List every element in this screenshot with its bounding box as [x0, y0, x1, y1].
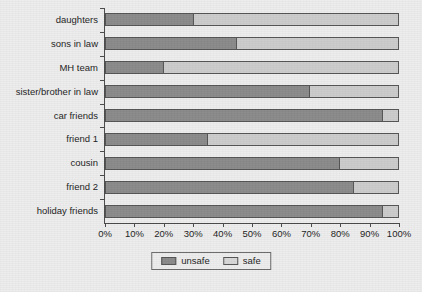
bar-row: friend 1 — [105, 133, 399, 146]
bar-row: holiday friends — [105, 205, 399, 218]
x-axis-tick — [164, 223, 165, 227]
x-axis-label: 70% — [301, 229, 320, 239]
bar-row: daughters — [105, 13, 399, 26]
x-axis-tick — [281, 223, 282, 227]
x-axis-label: 90% — [360, 229, 379, 239]
x-axis-label: 0% — [98, 229, 112, 239]
y-axis-tick — [100, 127, 105, 128]
x-axis-label: 100% — [387, 229, 411, 239]
x-axis-label: 40% — [213, 229, 232, 239]
stacked-bar[interactable] — [105, 181, 399, 194]
bar-segment-unsafe[interactable] — [106, 14, 194, 25]
x-axis-label: 80% — [331, 229, 350, 239]
bar-segment-safe[interactable] — [310, 86, 398, 97]
bar-row: sons in law — [105, 37, 399, 50]
y-axis-tick — [100, 151, 105, 152]
bar-segment-safe[interactable] — [194, 14, 398, 25]
x-axis-tick — [105, 223, 106, 227]
x-axis-tick — [134, 223, 135, 227]
bar-row: cousin — [105, 157, 399, 170]
bar-segment-safe[interactable] — [383, 206, 398, 217]
bar-segment-safe[interactable] — [164, 62, 398, 73]
stacked-bar[interactable] — [105, 13, 399, 26]
bar-row: car friends — [105, 109, 399, 122]
stacked-bar[interactable] — [105, 37, 399, 50]
bar-segment-safe[interactable] — [208, 134, 398, 145]
plot-area: daughterssons in lawMH teamsister/brothe… — [105, 8, 399, 223]
x-axis-tick — [399, 223, 400, 227]
stacked-bar-chart: daughterssons in lawMH teamsister/brothe… — [0, 0, 422, 292]
stacked-bar[interactable] — [105, 61, 399, 74]
legend-swatch-unsafe — [161, 257, 176, 265]
category-label: daughters — [56, 15, 98, 25]
category-label: friend 1 — [66, 134, 98, 144]
y-axis-tick — [100, 32, 105, 33]
category-label: holiday friends — [37, 206, 98, 216]
y-axis-tick — [100, 80, 105, 81]
bar-segment-unsafe[interactable] — [106, 182, 354, 193]
y-axis-tick — [100, 56, 105, 57]
bar-row: friend 2 — [105, 181, 399, 194]
x-axis-label: 50% — [242, 229, 261, 239]
bar-segment-unsafe[interactable] — [106, 206, 383, 217]
bar-segment-safe[interactable] — [383, 110, 398, 121]
stacked-bar[interactable] — [105, 85, 399, 98]
x-axis-tick — [340, 223, 341, 227]
legend-item-safe[interactable]: safe — [223, 256, 261, 266]
legend-label-unsafe: unsafe — [181, 256, 210, 266]
x-axis-tick — [370, 223, 371, 227]
category-label: sons in law — [51, 39, 98, 49]
bar-segment-unsafe[interactable] — [106, 62, 164, 73]
x-axis-label: 10% — [125, 229, 144, 239]
bar-segment-unsafe[interactable] — [106, 110, 383, 121]
legend-item-unsafe[interactable]: unsafe — [161, 256, 210, 266]
bar-segment-safe[interactable] — [354, 182, 398, 193]
chart-legend: unsafe safe — [151, 252, 271, 270]
y-axis-tick — [100, 8, 105, 9]
legend-label-safe: safe — [243, 256, 261, 266]
bar-segment-unsafe[interactable] — [106, 158, 340, 169]
category-label: sister/brother in law — [16, 87, 98, 97]
stacked-bar[interactable] — [105, 109, 399, 122]
stacked-bar[interactable] — [105, 157, 399, 170]
bar-segment-unsafe[interactable] — [106, 38, 237, 49]
bar-segment-unsafe[interactable] — [106, 86, 310, 97]
x-axis-tick — [223, 223, 224, 227]
x-axis-tick — [193, 223, 194, 227]
bar-row: sister/brother in law — [105, 85, 399, 98]
bar-segment-safe[interactable] — [340, 158, 398, 169]
category-label: MH team — [59, 63, 98, 73]
y-axis-tick — [100, 199, 105, 200]
stacked-bar[interactable] — [105, 205, 399, 218]
x-axis-label: 60% — [272, 229, 291, 239]
stacked-bar[interactable] — [105, 133, 399, 146]
x-axis-tick — [311, 223, 312, 227]
category-label: car friends — [54, 111, 98, 121]
y-axis-tick — [100, 175, 105, 176]
category-label: cousin — [71, 158, 98, 168]
legend-swatch-safe — [223, 257, 238, 265]
category-label: friend 2 — [66, 182, 98, 192]
x-axis-label: 20% — [154, 229, 173, 239]
x-axis-tick — [252, 223, 253, 227]
y-axis-tick — [100, 104, 105, 105]
x-axis-label: 30% — [184, 229, 203, 239]
bar-row: MH team — [105, 61, 399, 74]
bar-segment-safe[interactable] — [237, 38, 398, 49]
bar-segment-unsafe[interactable] — [106, 134, 208, 145]
